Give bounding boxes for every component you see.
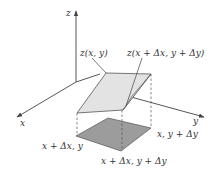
x-axis-label: x bbox=[20, 118, 25, 128]
base-label-dx: x + Δx, y bbox=[42, 141, 84, 151]
base-region bbox=[76, 118, 151, 151]
z-axis-label: z bbox=[65, 8, 71, 18]
y-axis bbox=[131, 97, 204, 117]
x-axis bbox=[17, 82, 76, 117]
surface-label-z-xy: z(x, y) bbox=[79, 48, 108, 58]
y-axis-hidden-segment bbox=[76, 74, 100, 82]
surface-patch bbox=[77, 73, 151, 113]
surface-element-diagram: z x y z(x, y) z(x + Δx, y + Δy) x + Δx, … bbox=[0, 0, 215, 176]
surface-label-z-dx-dy: z(x + Δx, y + Δy) bbox=[126, 48, 205, 58]
base-label-dx-dy: x + Δx, y + Δy bbox=[101, 156, 167, 166]
y-axis-label: y bbox=[192, 116, 199, 126]
base-label-dy: x, y + Δy bbox=[157, 129, 199, 139]
leader-z-xy bbox=[92, 58, 106, 73]
